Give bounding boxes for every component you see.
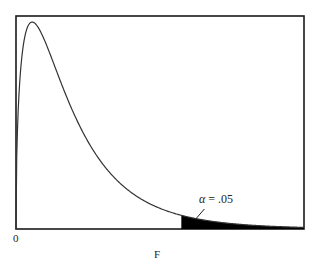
plot-frame xyxy=(16,16,304,229)
density-curve xyxy=(16,22,304,229)
x-tick-label-0: 0 xyxy=(13,232,19,244)
annotation-alpha-label: α = .05 xyxy=(199,192,233,206)
alpha-value: = .05 xyxy=(205,192,233,206)
f-distribution-chart: α = .05 0 F xyxy=(0,0,317,268)
x-axis-label: F xyxy=(154,248,160,260)
annotation-pointer-line xyxy=(195,209,204,220)
